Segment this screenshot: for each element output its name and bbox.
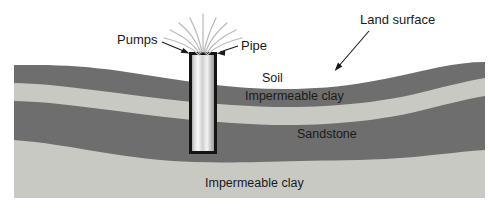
- layer-label-soil: Soil: [262, 71, 283, 85]
- layer-label-upper-impermeable-clay: Impermeable clay: [245, 89, 344, 103]
- layer-label-sandstone: Sandstone: [297, 127, 357, 141]
- geology-cross-section-diagram: Pumps Pipe Land surface Soil Impermeable…: [0, 0, 499, 210]
- callout-label-pipe: Pipe: [241, 38, 267, 53]
- spray-stream: [204, 18, 216, 52]
- well-pipe-group: [191, 54, 216, 153]
- callout-label-land-surface: Land surface: [360, 12, 435, 27]
- spray-stream: [190, 18, 202, 52]
- cross-section-canvas: Pumps Pipe Land surface Soil Impermeable…: [0, 0, 499, 210]
- callout-label-pumps: Pumps: [117, 32, 158, 47]
- layer-label-lower-impermeable-clay: Impermeable clay: [205, 176, 304, 190]
- pipe-body: [191, 54, 216, 153]
